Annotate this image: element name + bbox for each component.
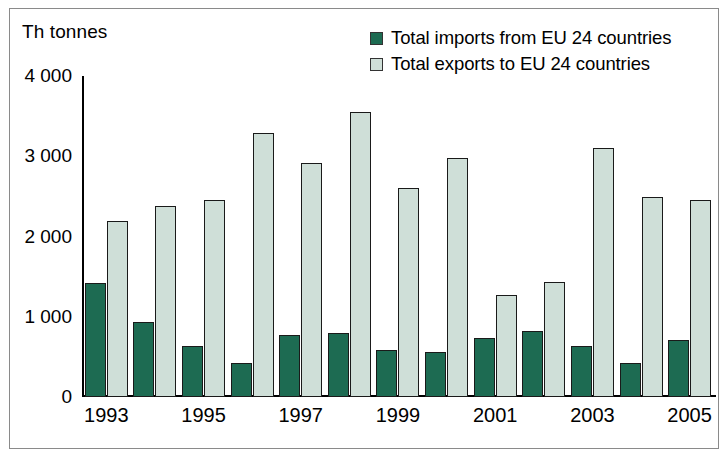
bar-groups — [82, 76, 714, 397]
bar-exports — [107, 221, 128, 397]
bar-exports — [642, 197, 663, 397]
bar-exports — [690, 200, 711, 397]
bar-imports — [231, 363, 252, 398]
x-axis-tick-label: 1995 — [179, 404, 228, 444]
bar-exports — [301, 163, 322, 397]
bar-group — [276, 76, 325, 397]
x-axis-tick-label: 2001 — [471, 404, 520, 444]
bar-imports — [133, 322, 154, 397]
bar-exports — [155, 206, 176, 397]
bar-imports — [668, 340, 689, 397]
bar-exports — [350, 112, 371, 397]
bar-imports — [376, 350, 397, 397]
bar-exports — [593, 148, 614, 397]
bar-imports — [85, 283, 106, 397]
chart-legend: Total imports from EU 24 countries Total… — [370, 26, 671, 78]
legend-item-exports: Total exports to EU 24 countries — [370, 52, 671, 76]
x-axis-tick-label — [131, 404, 180, 444]
y-axis-tick-label: 0 — [61, 386, 72, 408]
x-axis-tick-label: 2003 — [568, 404, 617, 444]
bar-group — [519, 76, 568, 397]
bar-group — [131, 76, 180, 397]
chart-container: Th tonnes Total imports from EU 24 count… — [0, 0, 726, 455]
y-axis-tick-label: 3 000 — [24, 145, 72, 167]
bar-group — [228, 76, 277, 397]
x-axis-tick-label — [325, 404, 374, 444]
y-axis-tick-label: 2 000 — [24, 226, 72, 248]
bar-imports — [425, 352, 446, 397]
legend-item-imports: Total imports from EU 24 countries — [370, 26, 671, 50]
x-axis-tick-label — [617, 404, 666, 444]
y-axis-tick-labels: 4 0003 0002 0001 0000 — [0, 0, 72, 455]
y-axis-tick-label: 4 000 — [24, 65, 72, 87]
legend-label-exports: Total exports to EU 24 countries — [391, 53, 650, 75]
bar-exports — [496, 295, 517, 397]
bar-group — [422, 76, 471, 397]
bar-exports — [447, 158, 468, 397]
x-axis-tick-label: 2005 — [665, 404, 714, 444]
x-axis-tick-label: 1997 — [276, 404, 325, 444]
y-axis-tick-label: 1 000 — [24, 306, 72, 328]
x-axis-tick-label: 1993 — [82, 404, 131, 444]
bar-group — [325, 76, 374, 397]
x-axis-tick-label: 1999 — [374, 404, 423, 444]
bar-group — [471, 76, 520, 397]
bar-group — [374, 76, 423, 397]
bar-group — [179, 76, 228, 397]
bar-exports — [253, 133, 274, 397]
bar-group — [82, 76, 131, 397]
legend-swatch-exports — [370, 58, 383, 71]
legend-label-imports: Total imports from EU 24 countries — [391, 27, 671, 49]
bar-imports — [279, 335, 300, 397]
bar-imports — [474, 338, 495, 397]
bar-exports — [398, 188, 419, 397]
bar-imports — [522, 331, 543, 397]
bar-imports — [328, 333, 349, 397]
x-axis-tick-label — [519, 404, 568, 444]
bar-imports — [571, 346, 592, 397]
bar-group — [665, 76, 714, 397]
bar-imports — [182, 346, 203, 397]
x-axis-tick-labels: 1993199519971999200120032005 — [82, 404, 714, 444]
x-axis-tick-label — [228, 404, 277, 444]
bar-group — [617, 76, 666, 397]
bar-imports — [620, 363, 641, 398]
bar-exports — [544, 282, 565, 397]
bar-group — [568, 76, 617, 397]
bar-exports — [204, 200, 225, 397]
plot-area — [82, 76, 714, 397]
legend-swatch-imports — [370, 32, 383, 45]
x-axis-tick-label — [422, 404, 471, 444]
